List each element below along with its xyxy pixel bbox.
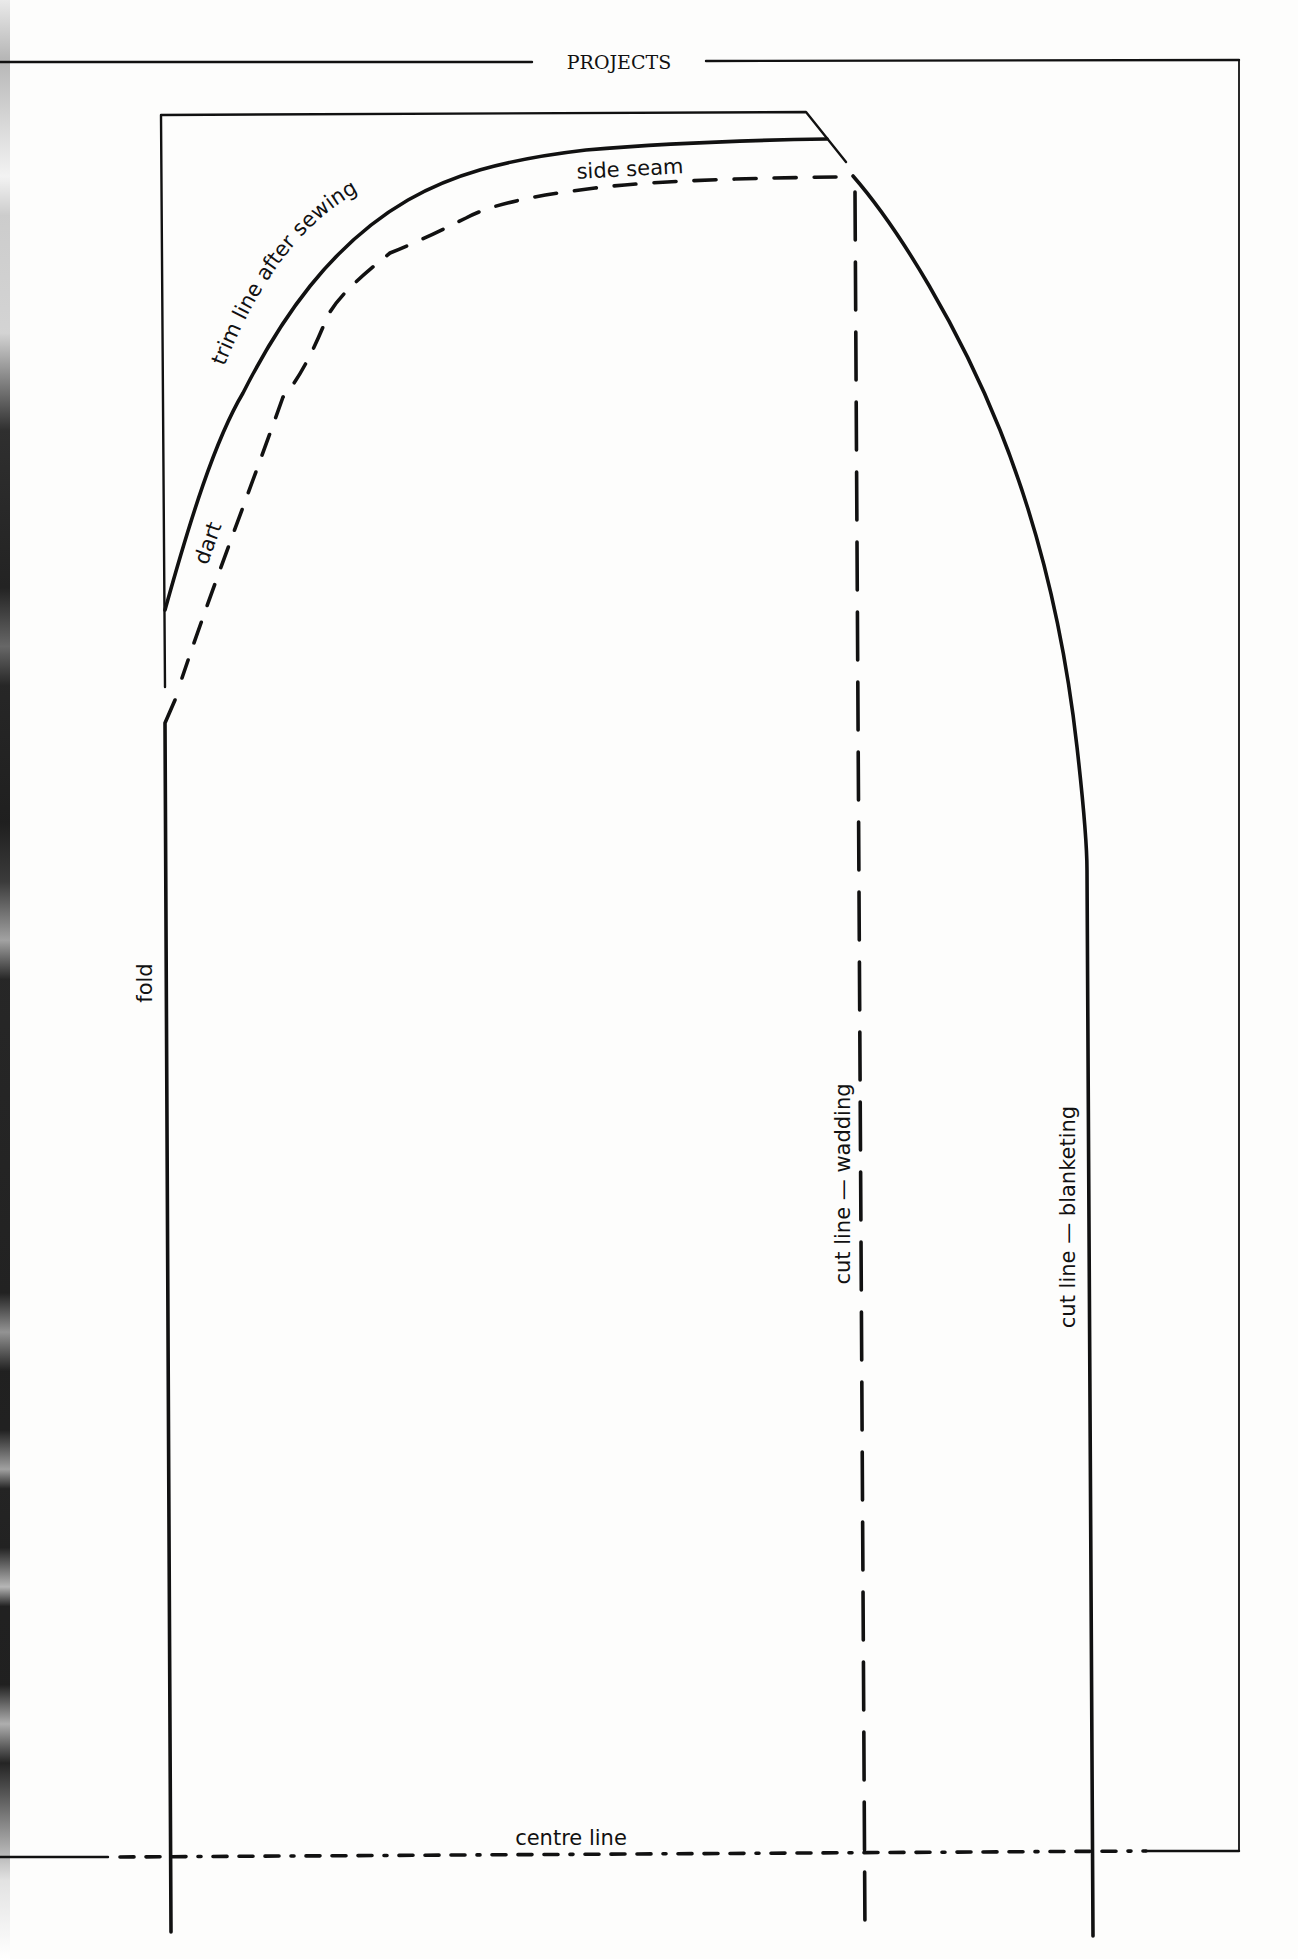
fold-line bbox=[165, 700, 175, 1932]
centre-line-label: centre line bbox=[515, 1826, 627, 1850]
side-seam-label: side seam bbox=[576, 154, 684, 184]
dart-label: dart bbox=[189, 519, 226, 568]
cut-line-blanketing bbox=[853, 176, 1093, 1936]
pattern-diagram: PROJECTS trim line after sewing side sea… bbox=[0, 0, 1298, 1959]
cut-line-wadding bbox=[855, 192, 865, 1935]
trim-line bbox=[165, 139, 827, 610]
trim-line-label-text: trim line after sewing bbox=[207, 175, 362, 368]
centre-line bbox=[120, 1851, 1146, 1857]
fold-label: fold bbox=[133, 963, 157, 1002]
header-rule-right bbox=[706, 60, 1239, 61]
pattern-page: PROJECTS trim line after sewing side sea… bbox=[0, 0, 1298, 1959]
pattern-top-edge bbox=[161, 112, 846, 687]
cut-line-wadding-label: cut line — wadding bbox=[831, 1083, 855, 1284]
header-title: PROJECTS bbox=[567, 51, 671, 73]
cut-line-blanketing-label: cut line — blanketing bbox=[1056, 1106, 1080, 1328]
trim-line-label: trim line after sewing bbox=[207, 175, 362, 368]
